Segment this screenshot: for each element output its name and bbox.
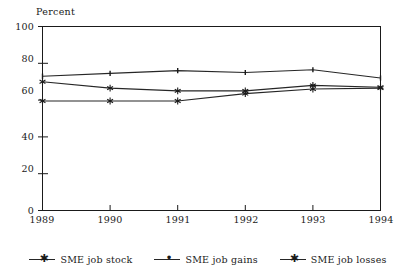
data-series-sme-job-stock [40, 78, 384, 94]
series-line [43, 70, 381, 78]
y-axis-ticks [38, 27, 43, 211]
plot-area [0, 0, 416, 275]
data-series-layer [40, 67, 384, 104]
line-chart: Percent 100 80 60 40 20 0 1989 1990 1991… [0, 0, 416, 275]
legend-item-sme-job-losses: ✱ SME job losses [280, 254, 387, 265]
plot-frame [43, 27, 381, 211]
legend-marker-star-icon: ✱ [29, 254, 55, 264]
chart-legend: ✱ SME job stock • SME job gains ✱ SME jo… [0, 248, 416, 270]
legend-label-sme-job-stock: SME job stock [60, 254, 132, 265]
data-series-sme-job-losses [40, 85, 384, 105]
series-line [43, 88, 381, 101]
legend-marker-star-icon: ✱ [280, 254, 306, 264]
legend-item-sme-job-stock: ✱ SME job stock [29, 254, 132, 265]
series-line [43, 82, 381, 91]
legend-label-sme-job-losses: SME job losses [311, 254, 387, 265]
x-axis-ticks [110, 205, 313, 211]
legend-item-sme-job-gains: • SME job gains [154, 254, 257, 265]
legend-marker-dot-icon: • [154, 254, 180, 264]
data-series-sme-job-gains [43, 67, 381, 80]
legend-label-sme-job-gains: SME job gains [185, 254, 257, 265]
